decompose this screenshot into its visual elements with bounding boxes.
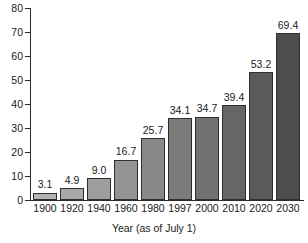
bar-group[interactable]: 53.2 [249,8,273,200]
y-axis-tick-label: 80 [1,3,23,14]
y-axis-tick-label: 60 [1,51,23,62]
bar-group[interactable]: 34.1 [168,8,192,200]
x-axis-line [30,200,304,201]
bar-group[interactable]: 3.1 [33,8,57,200]
bar-chart: 01020304050607080 3.14.99.016.725.734.13… [0,0,308,243]
bar[interactable] [141,138,165,200]
bar-value-label: 16.7 [110,146,142,157]
y-axis-tick-label: 10 [1,171,23,182]
bar[interactable] [33,193,57,200]
bar-group[interactable]: 25.7 [141,8,165,200]
bar-group[interactable]: 39.4 [222,8,246,200]
bar-value-label: 9.0 [83,165,115,176]
y-axis-tick-label: 0 [1,195,23,206]
bar-value-label: 4.9 [56,175,88,186]
bar[interactable] [168,118,192,200]
bar-group[interactable]: 16.7 [114,8,138,200]
bar-value-label: 39.4 [218,92,250,103]
bar-value-label: 69.4 [272,20,304,31]
plot-area: 3.14.99.016.725.734.134.739.453.269.4 [30,8,302,200]
bar[interactable] [222,105,246,200]
y-axis-tick [25,200,30,201]
bar-group[interactable]: 69.4 [276,8,300,200]
bar-value-label: 25.7 [137,125,169,136]
y-axis-tick-label: 20 [1,147,23,158]
bar-value-label: 34.7 [191,103,223,114]
bar-value-label: 53.2 [245,59,277,70]
bar[interactable] [60,188,84,200]
bar[interactable] [249,72,273,200]
y-axis-tick-label: 70 [1,27,23,38]
bar[interactable] [87,178,111,200]
bar[interactable] [195,117,219,200]
y-axis-tick-label: 40 [1,99,23,110]
bar[interactable] [114,160,138,200]
y-axis-tick-label: 30 [1,123,23,134]
bar-group[interactable]: 34.7 [195,8,219,200]
x-axis-tick-label: 2030 [271,203,305,214]
x-axis-title: Year (as of July 1) [0,223,308,234]
bar-group[interactable]: 9.0 [87,8,111,200]
y-axis-tick-label: 50 [1,75,23,86]
bar[interactable] [276,33,300,200]
bar-group[interactable]: 4.9 [60,8,84,200]
